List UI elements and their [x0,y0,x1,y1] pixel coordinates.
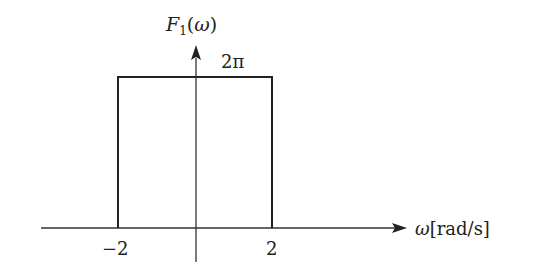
height-label: 2π [221,51,244,72]
spectrum-diagram: F1(ω) 2π −2 2 ω[rad/s] [0,0,542,275]
y-axis-label: F1(ω) [165,13,217,38]
rect-pulse [118,77,272,228]
x-axis-label: ω[rad/s] [415,218,490,239]
tick-label-neg2: −2 [102,238,129,259]
tick-label-2: 2 [266,238,277,259]
y-axis-arrow-icon [191,45,201,60]
